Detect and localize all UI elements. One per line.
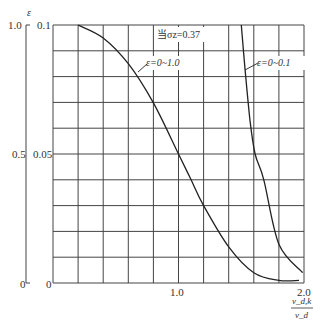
inner-tick-0: 0 — [46, 278, 52, 290]
outer-tick-05: 0.5 — [12, 148, 26, 160]
chart: ε 1.0 0.5 0 0.1 0.05 0 1.0 2.0 v_d,k v_d… — [0, 0, 323, 329]
series-label-2: ε=0~0.1 — [257, 57, 291, 68]
x-label-denominator: v_d — [295, 310, 308, 320]
outer-y-axis — [26, 25, 30, 283]
outer-tick-0: 0 — [20, 278, 26, 290]
inner-tick-005: 0.05 — [33, 148, 53, 160]
x-tick-1: 1.0 — [170, 286, 184, 298]
inner-tick-01: 0.1 — [37, 19, 51, 31]
annotation: 当σz=0.37 — [157, 28, 200, 40]
y-axis-label: ε — [27, 7, 31, 18]
outer-tick-1: 1.0 — [8, 19, 22, 31]
x-label-numerator: v_d,k — [292, 296, 312, 306]
series-label-1: ε=0~1.0 — [146, 57, 180, 68]
